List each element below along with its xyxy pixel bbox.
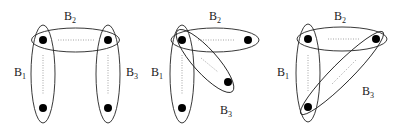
panel-2 [169, 23, 259, 123]
label-subscript: 1 [159, 72, 163, 81]
label-text: B [362, 84, 370, 98]
dotted-edge [201, 58, 218, 72]
node [372, 35, 380, 43]
label-text: B [151, 65, 159, 79]
hyperedge-b3 [169, 23, 242, 100]
label-text: B [277, 65, 285, 79]
panel-1 [31, 25, 120, 123]
label-b2: B2 [64, 10, 76, 22]
dotted-edge [332, 60, 356, 84]
label-b2: B2 [334, 10, 346, 22]
label-subscript: 2 [72, 16, 76, 25]
label-text: B [126, 65, 134, 79]
label-text: B [209, 9, 217, 23]
label-b2: B2 [209, 10, 221, 22]
label-subscript: 2 [342, 16, 346, 25]
label-b3: B3 [362, 85, 374, 97]
node [244, 36, 252, 44]
node [178, 104, 186, 112]
label-b3: B3 [126, 66, 138, 78]
node [39, 36, 47, 44]
panel-3 [294, 24, 390, 122]
label-subscript: 3 [370, 91, 374, 100]
label-text: B [64, 9, 72, 23]
hypergraph-figure: B2 B1 B3 B2 B1 B3 B2 B1 B3 [0, 0, 400, 129]
label-text: B [220, 103, 228, 117]
label-subscript: 2 [217, 16, 221, 25]
node [104, 104, 112, 112]
node [224, 78, 232, 86]
label-subscript: 1 [285, 72, 289, 81]
label-text: B [14, 65, 22, 79]
node [178, 36, 186, 44]
label-subscript: 1 [22, 72, 26, 81]
node [304, 103, 312, 111]
label-b1: B1 [151, 66, 163, 78]
label-b1: B1 [277, 66, 289, 78]
label-b1: B1 [14, 66, 26, 78]
label-subscript: 3 [134, 72, 138, 81]
node [39, 104, 47, 112]
node [304, 35, 312, 43]
label-b3: B3 [220, 104, 232, 116]
label-text: B [334, 9, 342, 23]
label-subscript: 3 [228, 110, 232, 119]
node [104, 36, 112, 44]
